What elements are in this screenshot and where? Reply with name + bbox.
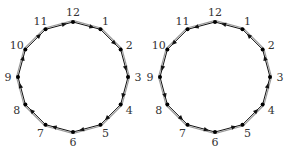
edge [73,125,101,132]
node-label-6: 6 [70,136,77,149]
node-label-3: 3 [277,71,284,84]
edge-shadow [166,28,186,48]
node-10 [23,48,27,52]
node-3 [126,75,130,79]
node-label-4: 4 [126,104,133,117]
edge [167,105,187,125]
edge-shadow [187,21,215,28]
node-label-5: 5 [102,127,109,140]
node-8 [165,103,169,107]
edge [101,29,121,49]
node-5 [99,123,103,127]
edge-shadow [24,28,44,48]
edge-shadow [215,21,243,28]
node-label-6: 6 [212,136,219,149]
edge-shadow [243,28,263,48]
edge-shadow [215,126,243,133]
node-label-5: 5 [244,127,251,140]
edge [263,50,270,78]
node-10 [165,48,169,52]
edge-shadow [159,49,166,76]
edge [215,125,243,132]
edge [46,22,74,29]
node-12 [71,20,75,24]
node-1 [241,27,245,31]
node-9 [158,75,162,79]
edge-shadow [17,49,24,76]
edge-shadow [122,49,129,76]
node-11 [44,27,48,31]
edge [243,29,263,49]
edge [101,105,121,125]
edge [167,29,187,49]
edge-shadow [17,77,24,105]
node-12 [213,20,217,24]
node-label-4: 4 [268,104,275,117]
edge-shadow [45,21,72,28]
edge [25,29,45,49]
edge-shadow [243,105,263,125]
node-label-7: 7 [37,127,44,140]
node-label-8: 8 [155,104,162,117]
edge-shadow [159,77,166,105]
node-2 [261,48,265,52]
edge-shadow [24,105,44,125]
edge [243,105,263,125]
edge [18,77,25,105]
edge-shadow [73,126,101,133]
node-8 [23,103,27,107]
node-label-2: 2 [126,39,133,52]
node-label-7: 7 [179,127,186,140]
edge [263,77,270,105]
edge-shadow [166,105,186,125]
node-2 [119,48,123,52]
node-9 [16,75,20,79]
edge [46,125,74,132]
edge [18,50,25,78]
node-label-3: 3 [135,71,142,84]
edge [160,77,167,105]
edge [215,22,243,29]
node-label-2: 2 [268,39,275,52]
clockwise-cycle-graph: 121234567891011 [5,6,142,149]
node-label-10: 10 [152,39,166,52]
edge-shadow [45,126,72,133]
edge-shadow [264,77,271,105]
edge [25,105,45,125]
node-7 [186,123,190,127]
edge [188,125,216,132]
diagram-canvas: 121234567891011 121234567891011 [0,0,286,158]
edge-shadow [187,126,215,133]
node-label-12: 12 [208,6,222,19]
node-4 [119,103,123,107]
node-label-11: 11 [176,15,190,28]
node-6 [71,130,75,134]
node-11 [186,27,190,31]
node-6 [213,130,217,134]
node-label-1: 1 [102,15,109,28]
node-3 [268,75,272,79]
edge [188,22,216,29]
node-label-10: 10 [10,39,24,52]
edge-shadow [73,21,101,28]
node-1 [99,27,103,31]
node-label-1: 1 [244,15,251,28]
node-4 [261,103,265,107]
node-7 [44,123,48,127]
edge-shadow [264,49,271,76]
node-label-9: 9 [5,71,12,84]
counterclockwise-cycle-graph: 121234567891011 [147,6,284,149]
node-label-9: 9 [147,71,154,84]
edge [121,50,128,78]
edge-shadow [101,28,121,48]
edge-shadow [122,77,129,105]
edge [73,22,101,29]
node-label-12: 12 [66,6,80,19]
node-5 [241,123,245,127]
node-label-11: 11 [34,15,48,28]
edge [121,77,128,105]
edge [160,50,167,78]
node-label-8: 8 [13,104,20,117]
edge-shadow [101,105,121,125]
